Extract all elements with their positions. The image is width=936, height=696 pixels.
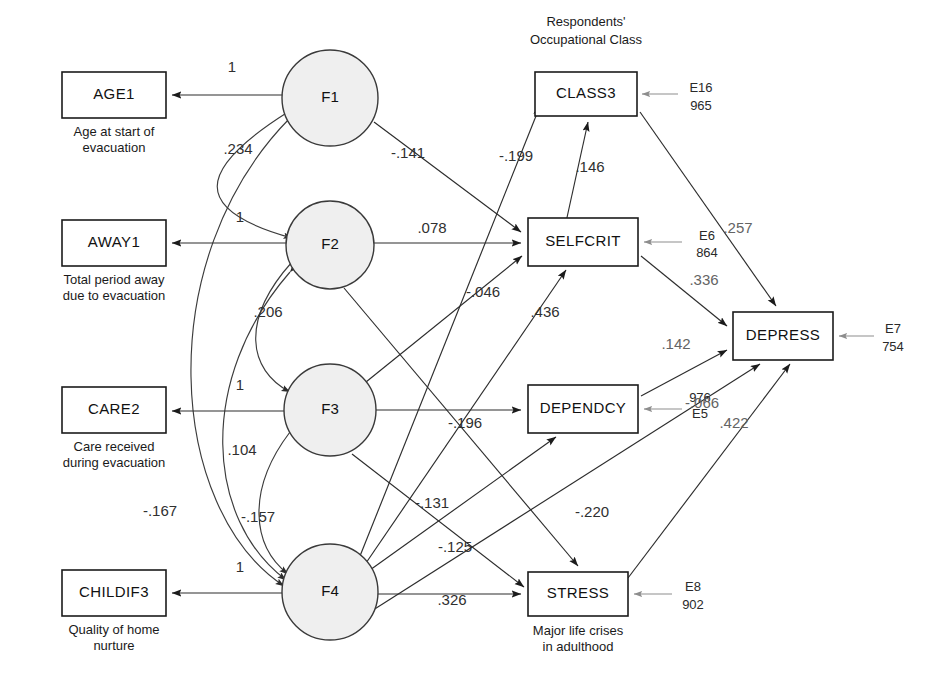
indicator-caption-care2-line2: during evacuation	[63, 455, 166, 470]
diagram-canvas: F1 F2 F3 F4 AGE1 Age at start of evacuat…	[0, 0, 936, 696]
corr-arc-f3-f4	[259, 432, 290, 574]
loading-label-f3-care2: 1	[236, 376, 244, 393]
error-label-e7: E7	[885, 321, 901, 336]
indicator-label-away1: AWAY1	[88, 233, 140, 250]
outcome-label-dependcy: DEPENDCY	[540, 399, 627, 416]
corr-label-f1-f2: .234	[223, 140, 252, 157]
error-value-e16: 965	[690, 98, 712, 113]
path-label-f2-stress: -.220	[575, 503, 609, 520]
path-label-stress-depress: .422	[719, 414, 748, 431]
outcome-label-stress: STRESS	[547, 584, 609, 601]
outcome-boxes: Respondents' Occupational Class CLASS3 E…	[528, 14, 904, 654]
path-label-selfcrit-depress: .336	[689, 271, 718, 288]
structural-path-labels: -.141 -.199 .146 .078 -.046 .436 -.196 -…	[391, 144, 753, 608]
error-label-e6: E6	[699, 228, 715, 243]
path-label-f1-selfcrit: -.141	[391, 144, 425, 161]
latent-factors: F1 F2 F3 F4	[282, 50, 378, 640]
path-label-class3-depress: .257	[723, 219, 752, 236]
path-label-f3-selfcrit: -.046	[466, 283, 500, 300]
factor-label-f2: F2	[321, 235, 339, 252]
indicator-caption-childif3-line1: Quality of home	[68, 622, 159, 637]
error-value-e8: 902	[682, 597, 704, 612]
corr-label-f3-f4: .104	[227, 441, 256, 458]
path-label-dependcy-depress: .142	[661, 335, 690, 352]
indicator-caption-away1-line2: due to evacuation	[63, 288, 166, 303]
loading-label-f4-childif3: 1	[236, 558, 244, 575]
path-dependcy-depress	[641, 350, 727, 396]
indicator-caption-age1-line1: Age at start of	[74, 124, 155, 139]
indicator-label-childif3: CHILDIF3	[79, 583, 149, 600]
sem-path-diagram: F1 F2 F3 F4 AGE1 Age at start of evacuat…	[0, 0, 936, 696]
error-label-e16: E16	[689, 80, 712, 95]
factor-label-f3: F3	[321, 400, 339, 417]
class3-heading-line1: Respondents'	[546, 14, 625, 29]
path-label-class3-selfcrit: .146	[575, 158, 604, 175]
loading-label-f2-away1: 1	[236, 208, 244, 225]
indicator-caption-age1-line2: evacuation	[83, 140, 146, 155]
indicator-caption-care2-line1: Care received	[74, 439, 155, 454]
corr-label-f2-f3: .206	[253, 303, 282, 320]
indicator-boxes: AGE1 Age at start of evacuation AWAY1 To…	[62, 72, 166, 653]
path-label-f4-stress: .326	[437, 591, 466, 608]
indicator-label-age1: AGE1	[93, 85, 135, 102]
path-label-f2-selfcrit: .078	[417, 219, 446, 236]
indicator-caption-away1-line1: Total period away	[63, 272, 165, 287]
factor-label-f4: F4	[321, 582, 339, 599]
corr-arc-f1-f2	[217, 112, 292, 238]
path-f3-selfcrit	[366, 256, 522, 382]
structural-paths	[344, 106, 790, 612]
factor-label-f1: F1	[321, 88, 339, 105]
error-value-e7: 754	[882, 339, 904, 354]
outcome-label-depress: DEPRESS	[746, 326, 821, 343]
path-selfcrit-depress	[641, 256, 727, 326]
path-label-f3-stress: -.131	[415, 494, 449, 511]
class3-heading-line2: Occupational Class	[530, 32, 642, 47]
loading-label-f1-age1: 1	[228, 58, 236, 75]
outcome-caption-stress-line2: in adulthood	[543, 639, 614, 654]
path-label-f4-selfcrit: .436	[530, 303, 559, 320]
corr-label-f2-f4: -.157	[241, 508, 275, 525]
path-label-f4-dependcy: -.125	[438, 538, 472, 555]
path-label-f4-depress: -.066	[685, 394, 719, 411]
outcome-caption-stress-line1: Major life crises	[533, 623, 624, 638]
path-f1-selfcrit	[374, 122, 521, 232]
corr-arc-f2-f3	[256, 262, 292, 392]
error-label-e8: E8	[685, 579, 701, 594]
path-label-f3-dependcy: -.196	[448, 414, 482, 431]
indicator-caption-childif3-line2: nurture	[93, 638, 134, 653]
path-f3-stress	[352, 454, 524, 587]
path-label-f4-class3: -.199	[499, 147, 533, 164]
outcome-label-class3: CLASS3	[556, 84, 616, 101]
indicator-label-care2: CARE2	[88, 400, 140, 417]
corr-label-f1-f4: -.167	[143, 502, 177, 519]
outcome-label-selfcrit: SELFCRIT	[545, 232, 621, 249]
error-value-e6: 864	[696, 245, 718, 260]
